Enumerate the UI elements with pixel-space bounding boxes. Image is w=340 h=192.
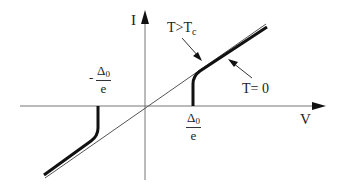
v-axis-label: V: [300, 112, 311, 127]
gap-negative-sign: -: [89, 70, 93, 86]
i-axis-arrow-icon: [141, 10, 149, 24]
gap-positive-denominator: e: [191, 128, 197, 142]
zero-temp-curve-left: [44, 106, 98, 175]
gap-positive-subscript: 0: [195, 116, 200, 126]
gap-negative-denominator: e: [101, 81, 107, 95]
normal-state-label-sub: c: [192, 26, 196, 37]
gap-negative-label: Δ0 e: [96, 64, 111, 95]
gap-positive-numerator: Δ0: [186, 111, 201, 128]
normal-state-line: [45, 24, 266, 178]
zero-temp-label: T= 0: [242, 82, 269, 96]
normal-state-label: T>Tc: [167, 21, 196, 37]
gap-negative-numerator: Δ0: [96, 64, 111, 81]
gap-positive-label: Δ0 e: [186, 111, 201, 142]
zero-temp-pointer: [233, 63, 252, 78]
i-axis-label: I: [131, 13, 136, 28]
normal-state-pointer-arrow-icon: [193, 52, 202, 61]
gap-negative-subscript: 0: [105, 69, 110, 79]
v-axis-arrow-icon: [312, 102, 326, 110]
normal-state-label-main: T>T: [167, 20, 192, 35]
